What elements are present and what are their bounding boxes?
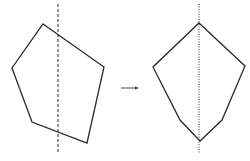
reflection-diagram <box>0 0 250 161</box>
arrow-head-icon <box>135 86 139 90</box>
